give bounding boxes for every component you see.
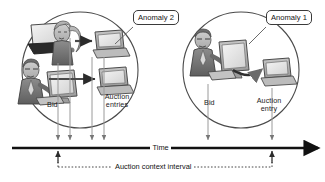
right-auction-entry-label: Auction entry: [253, 97, 285, 113]
callout-anomaly-2[interactable]: Anomaly 2: [133, 10, 179, 25]
diagram-vector-layer: [0, 0, 325, 182]
callout-leader-anomaly-1: [249, 27, 266, 44]
auction-context-interval-label: Auction context interval: [112, 162, 194, 171]
right-bid-label: Bid: [204, 99, 215, 107]
left-auction-entries-label: Auction entries: [101, 93, 133, 109]
left-bid-label: Bid: [47, 101, 58, 109]
time-axis-label: Time: [150, 143, 171, 152]
device-auction-server-top: [93, 30, 130, 58]
callout-anomaly-1[interactable]: Anomaly 1: [266, 10, 312, 25]
actor-man-at-desktop-left: [18, 59, 77, 105]
device-auction-server-right: [261, 58, 297, 86]
diagram-canvas: Anomaly 2 Anomaly 1 Bid Auction entries …: [0, 0, 325, 182]
actor-woman-with-laptop: [28, 21, 81, 65]
device-auction-server-bottom: [97, 67, 134, 95]
